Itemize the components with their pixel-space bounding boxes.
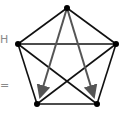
node-right bbox=[113, 41, 119, 47]
node-bottom-right bbox=[94, 101, 100, 107]
edge-left-bottomright bbox=[18, 44, 97, 104]
edge-left-bottomleft bbox=[18, 44, 37, 104]
complete-graph-diagram bbox=[0, 0, 121, 114]
edge-top-right bbox=[67, 8, 116, 44]
node-bottom-left bbox=[34, 101, 40, 107]
node-left bbox=[15, 41, 21, 47]
edge-top-left bbox=[18, 8, 67, 44]
edge-right-bottomleft bbox=[37, 44, 116, 104]
node-top bbox=[64, 5, 70, 11]
edge-right-bottomright bbox=[97, 44, 116, 104]
